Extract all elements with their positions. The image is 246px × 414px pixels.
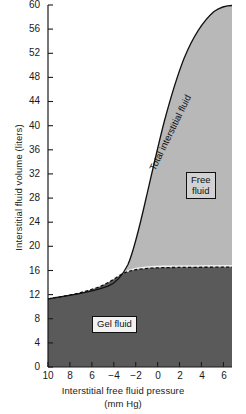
- x-tick-label-0: 0: [147, 370, 169, 381]
- x-tick-label-neg6: 6: [81, 370, 103, 381]
- x-tick-label-2: 2: [169, 370, 191, 381]
- x-tick-label-neg8: 8: [59, 370, 81, 381]
- chart-figure: 60 56 52 48 44 40 36 32 28 24 20 16 12 8…: [0, 0, 246, 414]
- y-tick-label-52: 52: [18, 47, 40, 58]
- x-tick-label-neg2: −2: [125, 370, 147, 381]
- x-axis-units: (mm Hg): [0, 398, 246, 409]
- y-tick-label-48: 48: [18, 71, 40, 82]
- x-axis-title: Interstitial free fluid pressure: [0, 385, 246, 396]
- y-tick-label-12: 12: [18, 289, 40, 300]
- y-tick-label-60: 60: [18, 0, 40, 10]
- y-tick-label-8: 8: [18, 313, 40, 324]
- y-tick-label-4: 4: [18, 337, 40, 348]
- free-fluid-label: Free fluid: [186, 172, 216, 199]
- x-tick-label-neg10: 10: [37, 370, 59, 381]
- y-axis-title: Interstitial fluid volume (liters): [13, 98, 24, 278]
- y-tick-label-56: 56: [18, 23, 40, 34]
- gel-fluid-area: [48, 267, 232, 367]
- free-fluid-label-line2: fluid: [192, 185, 209, 196]
- x-tick-label-4: 4: [191, 370, 213, 381]
- gel-fluid-label: Gel fluid: [92, 316, 137, 333]
- x-tick-label-6: 6: [213, 370, 235, 381]
- interstitial-fluid-chart: [0, 0, 246, 414]
- x-tick-label-neg4: −4: [103, 370, 125, 381]
- free-fluid-label-line1: Free: [191, 174, 211, 185]
